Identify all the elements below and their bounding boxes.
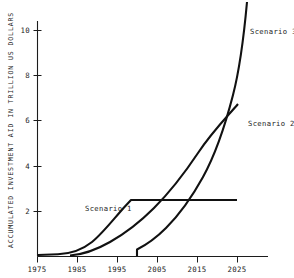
y-tick-label-2: 2 bbox=[25, 207, 30, 216]
x-tick-label-1995: 1995 bbox=[108, 265, 127, 274]
series-curve-scenario-3 bbox=[137, 2, 247, 256]
x-tick-label-1975: 1975 bbox=[28, 265, 47, 274]
series-label-scenario-2: Scenario 2 bbox=[248, 119, 294, 128]
y-tick-label-6: 6 bbox=[25, 116, 30, 125]
series-curve-scenario-2 bbox=[70, 104, 238, 256]
series-curve-scenario-1 bbox=[38, 200, 237, 255]
y-tick-label-8: 8 bbox=[25, 71, 30, 80]
y-tick-label-10: 10 bbox=[21, 26, 31, 35]
series-label-scenario-1: Scenario 1 bbox=[85, 204, 132, 213]
x-tick-label-1985: 1985 bbox=[68, 265, 87, 274]
chart-canvas: 10 8 6 4 2 1975 1985 1995 2005 2015 2025… bbox=[0, 0, 294, 278]
x-tick-label-2025: 2025 bbox=[228, 265, 247, 274]
y-axis-title: ACCUMULATED INVESTMENT AID IN TRILLION U… bbox=[7, 12, 15, 248]
x-tick-label-2015: 2015 bbox=[188, 265, 207, 274]
y-tick-label-4: 4 bbox=[25, 162, 30, 171]
x-tick-label-2005: 2005 bbox=[148, 265, 167, 274]
series-label-scenario-3: Scenario 3 bbox=[250, 27, 294, 36]
chart-figure: 10 8 6 4 2 1975 1985 1995 2005 2015 2025… bbox=[0, 0, 294, 278]
